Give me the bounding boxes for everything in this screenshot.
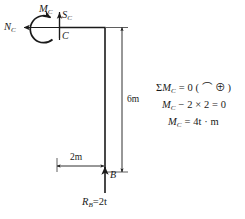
figure-canvas: MC SC NC C B 6m 2m RB=2t ΣMC = 0 ( ⌒ ⊕ )… bbox=[0, 0, 245, 219]
frame-structure bbox=[60, 28, 106, 173]
shear-subscript: C bbox=[67, 14, 72, 22]
moment-arc-arrow bbox=[30, 16, 52, 43]
shear-label-SC: SC bbox=[62, 10, 72, 22]
eq2-symbol: M bbox=[162, 99, 171, 110]
reaction-value: =2t bbox=[93, 196, 107, 207]
equation-line-2: MC − 2 × 2 = 0 bbox=[162, 100, 226, 112]
eq1-rest: = 0 ( ⌒ ⊕ ) bbox=[176, 82, 231, 93]
eq3-symbol: M bbox=[168, 116, 177, 127]
eq2-rest: − 2 × 2 = 0 bbox=[176, 99, 226, 110]
reaction-label-RB: RB=2t bbox=[82, 197, 107, 209]
dimension-label-6m: 6m bbox=[127, 95, 139, 105]
vertical-dimension-line bbox=[106, 28, 128, 173]
moment-subscript: C bbox=[48, 8, 53, 16]
axial-symbol: N bbox=[4, 21, 11, 32]
equation-line-3: MC = 4t · m bbox=[168, 117, 219, 129]
equation-line-1: ΣMC = 0 ( ⌒ ⊕ ) bbox=[156, 83, 231, 95]
moment-symbol: M bbox=[39, 3, 48, 14]
dimension-label-2m: 2m bbox=[70, 153, 82, 163]
axial-label-NC: NC bbox=[4, 22, 16, 34]
node-label-B: B bbox=[110, 170, 116, 180]
eq1-symbol: M bbox=[162, 82, 171, 93]
node-label-C: C bbox=[62, 31, 69, 41]
axial-subscript: C bbox=[11, 26, 16, 34]
eq3-rest: = 4t · m bbox=[182, 116, 219, 127]
moment-label-MC: MC bbox=[39, 4, 53, 16]
